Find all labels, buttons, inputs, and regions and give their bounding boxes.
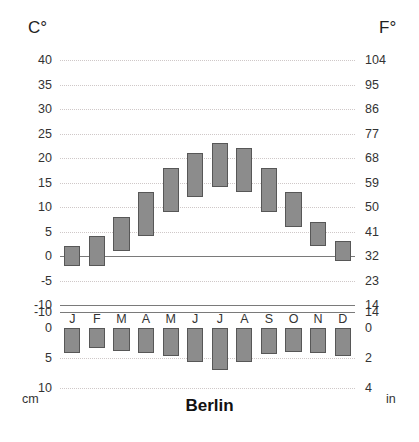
y-tick-fahrenheit-77: 77 xyxy=(365,127,379,141)
precip-tick-cm-0: 0 xyxy=(45,321,52,335)
y-tick-celsius-15: 15 xyxy=(38,176,52,190)
month-label-september: S xyxy=(265,312,273,326)
temperature-bar xyxy=(335,241,351,261)
precipitation-bar xyxy=(285,328,301,352)
month-label-april: A xyxy=(142,312,150,326)
gridline-c-25 xyxy=(60,134,355,135)
precip-gridline-5 xyxy=(60,358,355,359)
y-tick-fahrenheit-41: 41 xyxy=(365,225,379,239)
y-tick-fahrenheit-86: 86 xyxy=(365,102,379,116)
temperature-plot: 40104359530862577206815591050541032-523-… xyxy=(60,60,355,305)
y-tick-fahrenheit-50: 50 xyxy=(365,200,379,214)
precipitation-bar xyxy=(310,328,326,353)
temperature-bar xyxy=(64,246,80,266)
temperature-bar xyxy=(261,168,277,212)
y-tick-celsius-0: 0 xyxy=(45,249,52,263)
fahrenheit-unit-label: F° xyxy=(379,18,396,38)
month-label-july: J xyxy=(217,312,223,326)
y-tick-fahrenheit-32: 32 xyxy=(365,249,379,263)
gridline-c-30 xyxy=(60,109,355,110)
temperature-bar xyxy=(89,236,105,265)
precip-tick-in-4: 4 xyxy=(365,381,372,395)
y-tick-fahrenheit-23: 23 xyxy=(365,274,379,288)
y-tick-celsius--5: -5 xyxy=(41,274,52,288)
month-label-february: F xyxy=(93,312,101,326)
month-label-january: J xyxy=(69,312,75,326)
precipitation-bar xyxy=(335,328,351,356)
temperature-bar xyxy=(236,148,252,192)
y-tick-celsius-20: 20 xyxy=(38,151,52,165)
temperature-bar xyxy=(187,153,203,197)
month-label-august: A xyxy=(240,312,248,326)
month-label-december: D xyxy=(338,312,347,326)
y-tick-celsius-30: 30 xyxy=(38,102,52,116)
y-tick-celsius--10-lower: -10 xyxy=(34,305,52,319)
month-label-june: J xyxy=(192,312,198,326)
gridline-c--5 xyxy=(60,281,355,282)
precipitation-bar xyxy=(138,328,154,353)
precip-tick-in-0: 0 xyxy=(365,321,372,335)
gridline-c--10 xyxy=(60,305,355,306)
celsius-unit-label: C° xyxy=(28,18,47,38)
precipitation-bar xyxy=(113,328,129,351)
y-tick-celsius-40: 40 xyxy=(38,53,52,67)
y-tick-celsius-10: 10 xyxy=(38,200,52,214)
precipitation-bar xyxy=(261,328,277,354)
temperature-bar xyxy=(138,192,154,236)
temperature-bar xyxy=(310,222,326,247)
y-tick-fahrenheit-95: 95 xyxy=(365,78,379,92)
y-tick-celsius-5: 5 xyxy=(45,225,52,239)
precipitation-bar xyxy=(64,328,80,353)
gridline-c-40 xyxy=(60,60,355,61)
precip-tick-cm-10: 10 xyxy=(38,381,52,395)
month-label-november: N xyxy=(314,312,323,326)
precip-tick-cm-5: 5 xyxy=(45,351,52,365)
precip-top-axis-line xyxy=(60,312,355,313)
precipitation-bar xyxy=(212,328,228,370)
y-tick-fahrenheit-68: 68 xyxy=(365,151,379,165)
climate-chart: C° F° 4010435953086257720681559105054103… xyxy=(0,0,419,442)
gridline-c-10 xyxy=(60,207,355,208)
month-label-october: O xyxy=(289,312,299,326)
gridline-c-15 xyxy=(60,183,355,184)
precipitation-bar xyxy=(163,328,179,356)
gridline-c-20 xyxy=(60,158,355,159)
temperature-bar xyxy=(113,217,129,251)
chart-title: Berlin xyxy=(0,396,419,416)
temperature-bar xyxy=(212,143,228,187)
month-label-may: M xyxy=(165,312,175,326)
precipitation-plot: -10140052104 xyxy=(60,328,355,388)
precip-gridline-10 xyxy=(60,388,355,389)
gridline-c-35 xyxy=(60,85,355,86)
y-tick-fahrenheit-104: 104 xyxy=(365,53,386,67)
temperature-bar xyxy=(285,192,301,226)
y-tick-celsius-25: 25 xyxy=(38,127,52,141)
month-label-march: M xyxy=(116,312,126,326)
y-tick-fahrenheit-14-lower: 14 xyxy=(365,305,379,319)
month-axis: JFMAMJJASOND xyxy=(60,312,355,326)
y-tick-fahrenheit-59: 59 xyxy=(365,176,379,190)
precipitation-bar xyxy=(236,328,252,362)
temperature-bar xyxy=(163,168,179,212)
precip-tick-in-2: 2 xyxy=(365,351,372,365)
precipitation-bar xyxy=(89,328,105,348)
precipitation-bar xyxy=(187,328,203,362)
y-tick-celsius-35: 35 xyxy=(38,78,52,92)
